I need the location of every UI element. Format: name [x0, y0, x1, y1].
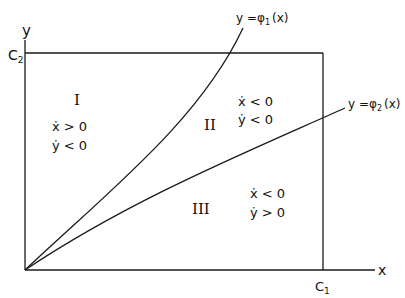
- x-axis-label: x: [378, 262, 386, 278]
- region-1-xdot: ẋ > 0: [52, 119, 87, 134]
- phase-plane-diagram: y x C2 C1 y =φ1(x) y =φ2(x) I ẋ > 0 ẏ < …: [0, 0, 405, 298]
- y-axis-label: y: [22, 22, 31, 40]
- c2-label: C2: [8, 47, 24, 65]
- region-1-numeral: I: [74, 91, 80, 109]
- region-2-numeral: II: [204, 116, 216, 134]
- region-3-ydot: ẏ > 0: [250, 205, 285, 220]
- region-2-xdot: ẋ < 0: [238, 94, 273, 109]
- phi1-label: y =φ1(x): [236, 11, 288, 27]
- phi2-label: y =φ2(x): [348, 97, 400, 113]
- region-3-xdot: ẋ < 0: [250, 186, 285, 201]
- region-2-ydot: ẏ < 0: [238, 112, 273, 127]
- region-1-ydot: ẏ < 0: [52, 138, 87, 153]
- c1-label: C1: [315, 279, 330, 296]
- region-3-numeral: III: [192, 200, 210, 218]
